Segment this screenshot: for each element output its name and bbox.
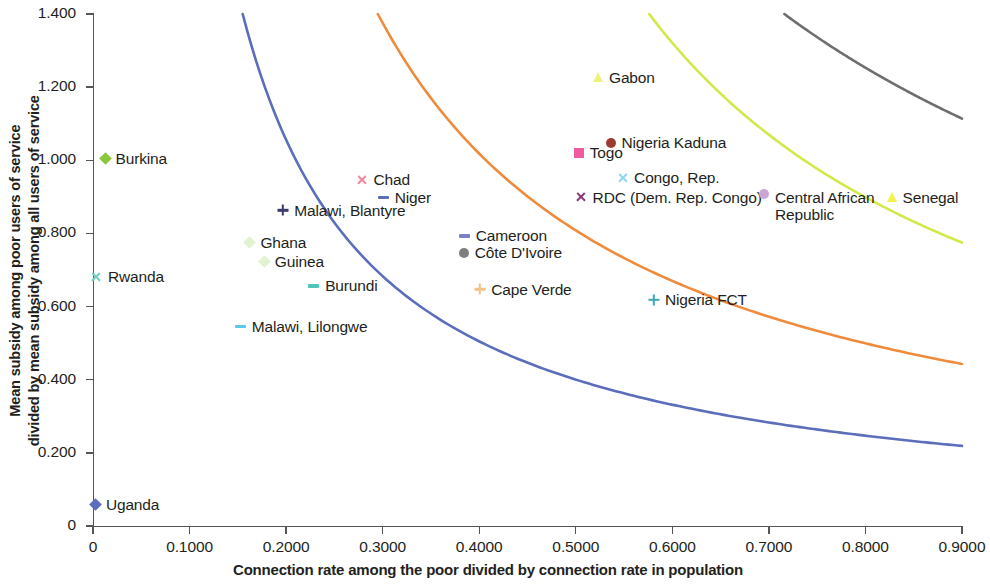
point-marker-dash-icon: [235, 325, 246, 328]
data-point[interactable]: Cape Verde: [474, 281, 571, 298]
point-marker-tri-icon: [887, 192, 897, 202]
point-label: Burundi: [325, 277, 377, 294]
point-marker-circle-icon: [606, 138, 616, 148]
point-label: Cape Verde: [491, 281, 571, 298]
point-marker-dash-icon: [308, 284, 319, 287]
data-point[interactable]: Central African Republic: [759, 189, 887, 224]
gray-isoline: [784, 14, 962, 119]
point-marker-ex-icon: [617, 172, 628, 183]
point-label: Senegal: [903, 189, 959, 206]
point-marker-diamond-icon: [244, 236, 257, 249]
point-label: Congo, Rep.: [634, 169, 719, 186]
data-point[interactable]: Côte D'Ivoire: [459, 244, 562, 261]
point-label: RDC (Dem. Rep. Congo): [593, 189, 762, 206]
data-point[interactable]: Niger: [378, 189, 431, 206]
point-marker-square-icon: [574, 148, 584, 158]
data-point[interactable]: Senegal: [887, 189, 959, 206]
point-marker-dash-icon: [378, 196, 389, 199]
point-marker-diamond-icon: [89, 498, 102, 511]
data-point[interactable]: RDC (Dem. Rep. Congo): [576, 189, 762, 206]
point-label: Gabon: [609, 69, 655, 86]
data-point[interactable]: Guinea: [260, 253, 324, 270]
data-point[interactable]: Nigeria FCT: [648, 291, 747, 308]
x-axis-title: Connection rate among the poor divided b…: [0, 561, 976, 578]
data-point[interactable]: Burkina: [101, 150, 168, 167]
point-marker-ex-icon: [91, 271, 102, 282]
data-point[interactable]: Gabon: [593, 69, 655, 86]
point-label: Rwanda: [108, 268, 164, 285]
point-label: Malawi, Lilongwe: [252, 318, 368, 335]
point-label: Nigeria Kaduna: [622, 134, 727, 151]
point-marker-circle-icon: [459, 248, 469, 258]
data-point[interactable]: Cameroon: [459, 227, 547, 244]
point-label: Burkina: [116, 150, 168, 167]
point-label: Central African Republic: [775, 189, 887, 224]
point-label: Chad: [373, 171, 409, 188]
point-marker-ex-icon: [356, 175, 367, 186]
data-point[interactable]: Ghana: [245, 234, 306, 251]
point-label: Cameroon: [476, 227, 547, 244]
data-point[interactable]: Nigeria Kaduna: [606, 134, 727, 151]
point-label: Nigeria FCT: [665, 291, 747, 308]
point-marker-plus-icon: [474, 284, 485, 295]
data-point[interactable]: Malawi, Lilongwe: [235, 318, 368, 335]
data-point[interactable]: Congo, Rep.: [617, 169, 719, 186]
point-label: Uganda: [106, 496, 159, 513]
point-label: Côte D'Ivoire: [475, 244, 562, 261]
point-marker-circle-icon: [759, 189, 769, 199]
point-label: Niger: [395, 189, 431, 206]
y-axis-title: Mean subsidy among poor users of service…: [6, 36, 43, 506]
data-point[interactable]: Uganda: [91, 496, 159, 513]
point-marker-diamond-icon: [258, 255, 271, 268]
point-label: Ghana: [260, 234, 306, 251]
data-point[interactable]: Chad: [356, 171, 409, 188]
point-marker-plus-icon: [277, 205, 288, 216]
y-axis-title-line1: Mean subsidy among poor users of service: [6, 36, 25, 506]
point-label: Guinea: [275, 253, 324, 270]
point-marker-dash-icon: [459, 234, 470, 237]
y-axis-title-line2: divided by mean subsidy among all users …: [25, 36, 44, 506]
point-marker-tri-icon: [593, 72, 603, 82]
point-marker-diamond-icon: [99, 152, 112, 165]
point-marker-ex-icon: [576, 192, 587, 203]
point-marker-plus-icon: [648, 295, 659, 306]
data-point[interactable]: Rwanda: [91, 268, 164, 285]
data-point[interactable]: Burundi: [308, 277, 377, 294]
